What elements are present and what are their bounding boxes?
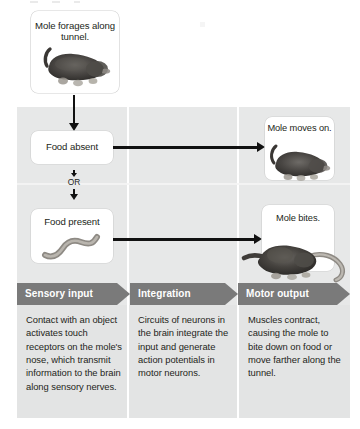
- stage-banner-arrow-tip: [117, 283, 130, 305]
- earthworm-illustration: [39, 229, 107, 261]
- stage-banner-label: Sensory input: [25, 288, 93, 299]
- scan-artifact: [52, 1, 60, 3]
- food-present-label: Food present: [31, 216, 113, 227]
- stage-banner-motor-output: Motor output: [238, 283, 350, 305]
- mole-illustration: [37, 39, 115, 89]
- mole-walking-illustration: [266, 140, 334, 182]
- food-absent-label: Food absent: [31, 141, 113, 152]
- food-present-card: Food present: [31, 209, 113, 263]
- or-label: OR: [53, 177, 95, 187]
- or-arrow-lower-head: [70, 194, 78, 200]
- stage-banner-arrow-tip: [337, 283, 350, 305]
- scan-artifact: [30, 1, 38, 3]
- stage-banner-integration: Integration: [130, 283, 238, 305]
- arrow-down-to-food-absent-head: [69, 123, 79, 131]
- stage-description-sensory-input: Contact with an object activates touch r…: [26, 313, 122, 393]
- stage-banner-label: Motor output: [246, 288, 309, 299]
- scan-artifact: [74, 1, 80, 3]
- stage-description-integration: Circuits of neurons in the brain integra…: [138, 313, 232, 380]
- mole-forages-card: Mole forages along tunnel.: [31, 11, 119, 93]
- stage-description-motor-output: Muscles contract, causing the mole to bi…: [248, 313, 344, 380]
- mole-bites-label: Mole bites.: [262, 213, 334, 224]
- stage-banner-arrow-tip: [225, 283, 238, 305]
- scan-artifact: [200, 22, 205, 27]
- arrow-right-to-moves-on-head: [257, 142, 265, 152]
- mole-moves-on-label: Mole moves on.: [265, 123, 334, 134]
- mole-reflex-pathway-figure: Mole forages along tunnel. Food absent: [0, 0, 360, 429]
- arrow-right-to-bites: [113, 238, 256, 241]
- arrow-down-to-food-absent: [73, 95, 75, 125]
- food-absent-card: Food absent: [31, 131, 113, 164]
- mole-biting-worm-illustration: [240, 228, 358, 290]
- stage-banner-label: Integration: [138, 288, 191, 299]
- stage-banner-sensory-input: Sensory input: [17, 283, 130, 305]
- arrow-right-to-moves-on: [113, 146, 259, 149]
